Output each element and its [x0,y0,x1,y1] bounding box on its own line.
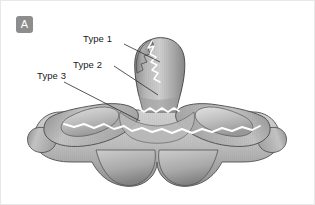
figure-panel: A Type 1 Type 2 Type 3 [0,0,315,205]
vertebral-body-group [27,104,286,187]
callout-label-type1: Type 1 [83,33,112,44]
axis-vertebra-illustration [0,0,315,205]
callout-label-type2: Type 2 [73,59,102,70]
panel-label-badge: A [16,16,33,33]
odontoid-process-group [135,38,185,112]
callout-label-type3: Type 3 [37,70,66,81]
